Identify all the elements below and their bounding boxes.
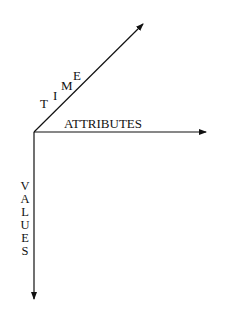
time-letter-i: I (53, 89, 57, 102)
axes-diagram (0, 0, 236, 309)
attributes-axis-label: ATTRIBUTES (64, 117, 142, 130)
values-letter-s: S (19, 245, 31, 258)
time-letter-t: T (40, 97, 48, 110)
values-axis-label: V A L U E S (19, 180, 31, 258)
time-letter-m: M (61, 79, 73, 92)
time-letter-e: E (73, 69, 81, 82)
